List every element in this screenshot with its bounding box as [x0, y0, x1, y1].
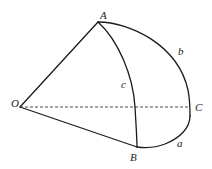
segment-OA — [20, 22, 98, 107]
spherical-triangle-diagram: O A B C a b c — [0, 0, 212, 169]
point-label-B: B — [130, 151, 137, 163]
point-label-O: O — [11, 97, 19, 109]
arc-AB-c — [98, 22, 137, 147]
arc-label-b: b — [178, 45, 184, 57]
point-label-A: A — [99, 9, 107, 21]
arc-label-a: a — [177, 137, 183, 149]
arc-label-c: c — [121, 78, 126, 90]
point-label-C: C — [195, 101, 203, 113]
arc-AC-b — [98, 22, 190, 116]
segment-OB — [20, 107, 137, 147]
